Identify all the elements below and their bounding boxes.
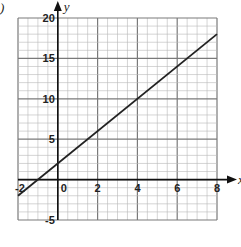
x-tick-label: 4 bbox=[134, 182, 141, 194]
y-tick-label: 15 bbox=[43, 52, 55, 64]
y-tick-label: 10 bbox=[43, 93, 55, 105]
grid bbox=[18, 18, 217, 220]
x-axis-label: x bbox=[237, 172, 241, 187]
x-axis-arrow-icon bbox=[227, 176, 237, 184]
part-label: ) bbox=[0, 0, 4, 15]
x-tick-label: 0 bbox=[61, 182, 67, 194]
y-tick-label: 20 bbox=[43, 12, 55, 24]
x-tick-label: 6 bbox=[174, 182, 180, 194]
y-tick-label: -5 bbox=[45, 214, 55, 226]
y-axis-arrow-icon bbox=[54, 1, 62, 11]
x-tick-label: 2 bbox=[95, 182, 101, 194]
y-axis-label: y bbox=[62, 0, 70, 14]
y-tick-label: 5 bbox=[49, 133, 55, 145]
x-tick-label: 8 bbox=[214, 182, 220, 194]
line-chart: ) -202468-55101520 x y bbox=[0, 0, 241, 247]
